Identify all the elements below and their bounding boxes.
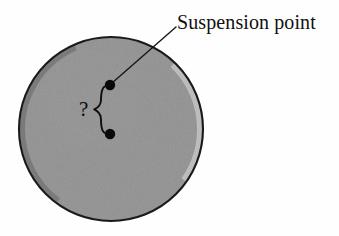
center-of-mass-dot bbox=[105, 129, 115, 139]
diagram-canvas bbox=[0, 0, 339, 236]
suspension-point-label: Suspension point bbox=[177, 12, 316, 32]
figure-container: Suspension point ? bbox=[0, 0, 339, 236]
unknown-distance-label: ? bbox=[79, 99, 88, 120]
suspension-point-dot bbox=[105, 80, 115, 90]
